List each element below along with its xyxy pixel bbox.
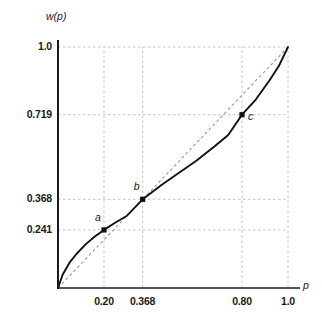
point-label-c: c [248,110,253,122]
y-tick-label: 1.0 [2,40,52,52]
y-tick-label: 0.241 [2,223,52,235]
data-point-marker-b [140,197,145,202]
data-point-markers [101,112,244,232]
identity-diagonal-line [58,47,288,288]
data-point-marker-a [101,227,106,232]
y-tick-label: 0.719 [2,108,52,120]
x-tick-label: 1.0 [266,295,310,307]
y-axis-title: w(p) [46,10,66,22]
point-label-a: a [95,211,101,223]
x-tick-label: 0.20 [82,295,126,307]
point-label-b: b [134,180,140,192]
data-point-marker-c [239,112,244,117]
weighting-function-chart: 0.2410.3680.7191.0 0.200.3680.801.0 abc … [0,0,322,319]
x-axis-title: p [303,279,309,291]
x-tick-label: 0.368 [121,295,165,307]
diagonal-reference-line [58,47,288,288]
y-tick-label: 0.368 [2,192,52,204]
x-tick-label: 0.80 [220,295,264,307]
